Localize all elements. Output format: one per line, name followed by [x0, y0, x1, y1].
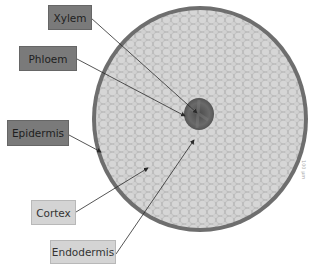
- scale-watermark: 100 µm: [302, 160, 306, 200]
- label-epidermis: Epidermis: [7, 120, 69, 146]
- label-cortex: Cortex: [31, 200, 76, 225]
- label-endodermis: Endodermis: [50, 240, 116, 264]
- root-cross-section-diagram: Xylem Phloem Epidermis Cortex Endodermis…: [0, 0, 312, 269]
- label-phloem: Phloem: [19, 46, 77, 71]
- label-xylem: Xylem: [48, 5, 92, 30]
